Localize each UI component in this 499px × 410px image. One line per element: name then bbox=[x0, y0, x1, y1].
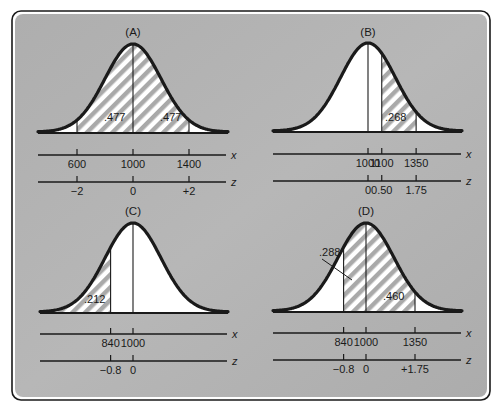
tick-label: −2 bbox=[71, 185, 84, 197]
axis-letter: x bbox=[465, 148, 472, 160]
tick-label: 1.75 bbox=[405, 184, 426, 196]
axis-letter: z bbox=[231, 355, 238, 367]
tick-label: 0 bbox=[130, 364, 136, 376]
area-label: .288 bbox=[319, 246, 340, 258]
tick-label: 1000 bbox=[354, 336, 378, 348]
normal-distribution-figure: (A).477.47760010001400x−20+2z(B).2681000… bbox=[0, 0, 499, 410]
panel-title: (C) bbox=[125, 205, 141, 217]
panel-title: (B) bbox=[360, 26, 376, 38]
tick-label: 1350 bbox=[404, 157, 428, 169]
area-label: .477 bbox=[160, 111, 181, 123]
tick-label: 1100 bbox=[370, 157, 394, 169]
tick-label: 0 bbox=[130, 185, 136, 197]
tick-label: −0.8 bbox=[100, 364, 122, 376]
tick-label: +2 bbox=[183, 185, 196, 197]
tick-label: 0 bbox=[363, 363, 369, 375]
axis-letter: x bbox=[465, 327, 472, 339]
area-label: .460 bbox=[383, 290, 404, 302]
area-label: .212 bbox=[84, 293, 105, 305]
axis-letter: x bbox=[230, 149, 237, 161]
axis-letter: z bbox=[465, 175, 472, 187]
tick-label: 1000 bbox=[121, 337, 145, 349]
figure-canvas: (A).477.47760010001400x−20+2z(B).2681000… bbox=[0, 0, 499, 410]
tick-label: +1.75 bbox=[401, 363, 429, 375]
tick-label: 600 bbox=[68, 158, 86, 170]
area-label: .477 bbox=[104, 111, 125, 123]
panel-title: (D) bbox=[358, 205, 374, 217]
axis-letter: z bbox=[230, 176, 237, 188]
tick-label: 0.50 bbox=[371, 184, 392, 196]
tick-label: 1350 bbox=[403, 336, 427, 348]
axis-letter: z bbox=[465, 354, 472, 366]
area-label: .268 bbox=[385, 111, 406, 123]
tick-label: 840 bbox=[334, 336, 352, 348]
axis-letter: x bbox=[231, 328, 238, 340]
panel-title: (A) bbox=[125, 26, 141, 38]
tick-label: 840 bbox=[101, 337, 119, 349]
tick-label: 1000 bbox=[121, 158, 145, 170]
tick-label: −0.8 bbox=[333, 363, 355, 375]
tick-label: 1400 bbox=[177, 158, 201, 170]
